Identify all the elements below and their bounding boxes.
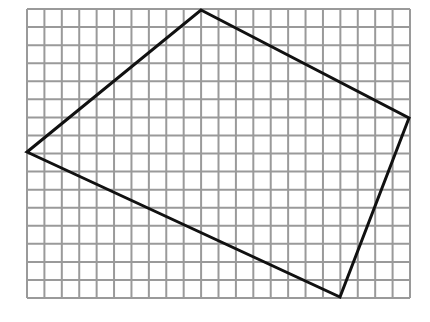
square-grid <box>27 9 410 298</box>
grid-diagram <box>0 0 430 322</box>
